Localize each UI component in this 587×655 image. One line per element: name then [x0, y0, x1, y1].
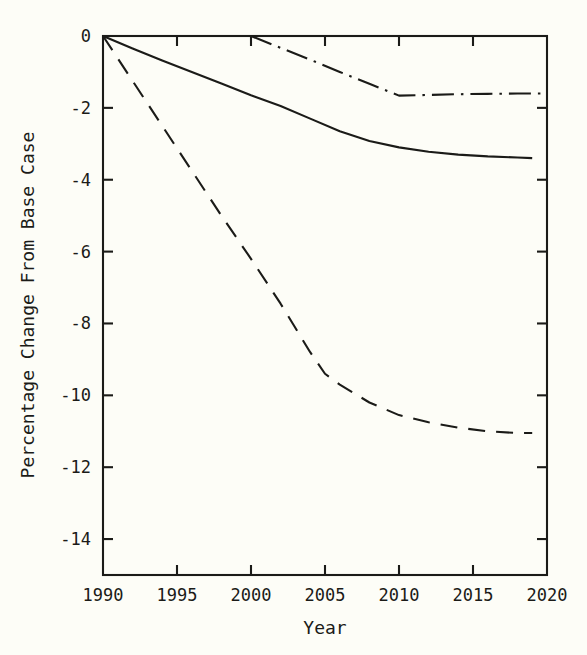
- y-tick-label: -10: [60, 385, 91, 405]
- y-axis-tick-labels: 0-2-4-6-8-10-12-14: [60, 26, 91, 549]
- data-series-group: [103, 36, 547, 433]
- y-tick-label: -6: [71, 242, 91, 262]
- y-tick-label: -8: [71, 313, 91, 333]
- y-tick-label: -2: [71, 98, 91, 118]
- x-axis-tick-labels: 1990199520002005201020152020: [83, 585, 568, 605]
- x-tick-label: 1990: [83, 585, 124, 605]
- series-line-solid-series: [103, 36, 532, 158]
- x-tick-label: 2020: [527, 585, 568, 605]
- y-axis-ticks: [103, 108, 547, 539]
- frame-box: [103, 36, 547, 575]
- plot-frame: [103, 36, 547, 575]
- x-axis-ticks: [177, 36, 473, 575]
- x-tick-label: 1995: [157, 585, 198, 605]
- y-tick-label: -14: [60, 529, 91, 549]
- x-tick-label: 2010: [379, 585, 420, 605]
- y-axis-title: Percentage Change From Base Case: [17, 132, 38, 479]
- plot-area: 1990199520002005201020152020 0-2-4-6-8-1…: [0, 0, 587, 655]
- y-tick-label: -4: [71, 170, 91, 190]
- x-tick-label: 2005: [305, 585, 346, 605]
- y-tick-label: 0: [81, 26, 91, 46]
- x-tick-label: 2015: [453, 585, 494, 605]
- y-tick-label: -12: [60, 457, 91, 477]
- x-tick-label: 2000: [231, 585, 272, 605]
- chart-figure: 1990199520002005201020152020 0-2-4-6-8-1…: [0, 0, 587, 655]
- series-line-long-dashed-series: [103, 36, 532, 433]
- x-axis-title: Year: [303, 617, 347, 638]
